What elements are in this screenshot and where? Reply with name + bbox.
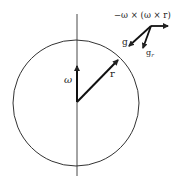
r-vector: [77, 60, 118, 102]
earth-rotation-diagram: ω r −ω × (ω × r) g gr: [0, 0, 183, 182]
g-label: g: [122, 37, 128, 47]
earth-circle: [13, 40, 139, 166]
g-r-subscript: r: [151, 52, 154, 58]
centrifugal-expression-label: −ω × (ω × r): [114, 10, 171, 20]
g-r-label: gr: [146, 48, 154, 58]
r-label: r: [110, 68, 115, 79]
omega-label: ω: [64, 74, 72, 85]
